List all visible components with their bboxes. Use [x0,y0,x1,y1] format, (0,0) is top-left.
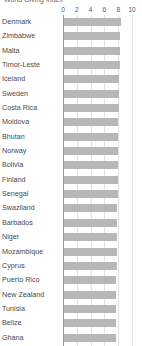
bar-sweden [64,90,119,98]
bar-row: Bolivia [0,158,142,172]
bar-row: Niger [0,230,142,244]
bar-zimbabwe [64,32,120,40]
category-label-zimbabwe: Zimbabwe [2,30,62,41]
bar-row: Swaziland [0,201,142,215]
bar-row: Ghana [0,331,142,345]
bar-row: Sweden [0,87,142,101]
plot-area: DenmarkZimbabweMaltaTimor-LesteIcelandSw… [0,15,142,346]
bar-row: Barbados [0,216,142,230]
category-label-tunisia: Tunisia [2,303,62,314]
bar-row: Costa Rica [0,101,142,115]
bar-row: Cyprus [0,259,142,273]
x-tick-label-6: 6 [103,5,107,14]
bar-new-zealand [64,291,116,299]
category-label-denmark: Denmark [2,16,62,27]
bar-costa-rica [64,104,119,112]
bar-row: Zimbabwe [0,29,142,43]
category-label-new-zealand: New Zealand [2,289,62,300]
bar-finland [64,176,118,184]
category-label-swaziland: Swaziland [2,202,62,213]
bar-row: Mozambique [0,245,142,259]
bar-puerto-rico [64,276,116,284]
bar-swaziland [64,204,117,212]
category-label-cyprus: Cyprus [2,260,62,271]
bar-rows: DenmarkZimbabweMaltaTimor-LesteIcelandSw… [0,15,142,345]
bar-norway [64,147,118,155]
bar-row: Iceland [0,72,142,86]
bar-bhutan [64,133,118,141]
category-label-barbados: Barbados [2,217,62,228]
x-tick-label-8: 8 [116,5,120,14]
x-axis-tick-labels: 0246810 [0,5,142,15]
bar-mozambique [64,248,117,256]
bar-denmark [64,18,121,26]
bar-malta [64,47,120,55]
x-tick-label-4: 4 [89,5,93,14]
bar-iceland [64,75,119,83]
bar-moldova [64,118,118,126]
bar-belize [64,319,116,327]
category-label-puerto-rico: Puerto Rico [2,274,62,285]
bar-row: Puerto Rico [0,273,142,287]
category-label-malta: Malta [2,45,62,56]
category-label-belize: Belize [2,317,62,328]
category-label-iceland: Iceland [2,73,62,84]
bar-row: Bhutan [0,130,142,144]
bar-row: Finland [0,173,142,187]
bar-row: Tunisia [0,302,142,316]
bar-niger [64,233,117,241]
bar-barbados [64,219,117,227]
category-label-senegal: Senegal [2,188,62,199]
bar-row: Norway [0,144,142,158]
category-label-ghana: Ghana [2,332,62,343]
bar-chart: World Giving Index 0246810 DenmarkZimbab… [0,0,142,346]
category-label-sweden: Sweden [2,88,62,99]
bar-row: New Zealand [0,288,142,302]
x-tick-label-10: 10 [128,5,135,14]
bar-tunisia [64,305,116,313]
bar-bolivia [64,161,118,169]
bar-row: Senegal [0,187,142,201]
x-tick-label-0: 0 [61,5,65,14]
category-label-finland: Finland [2,174,62,185]
category-label-moldova: Moldova [2,116,62,127]
category-label-bolivia: Bolivia [2,159,62,170]
bar-senegal [64,190,118,198]
x-tick-label-2: 2 [75,5,79,14]
category-label-costa-rica: Costa Rica [2,102,62,113]
category-label-mozambique: Mozambique [2,246,62,257]
category-label-niger: Niger [2,231,62,242]
category-label-bhutan: Bhutan [2,131,62,142]
bar-ghana [64,334,116,342]
bar-row: Denmark [0,15,142,29]
bar-row: Malta [0,44,142,58]
category-label-timor-leste: Timor-Leste [2,59,62,70]
bar-row: Timor-Leste [0,58,142,72]
bar-row: Belize [0,316,142,330]
bar-cyprus [64,262,117,270]
bar-row: Moldova [0,115,142,129]
category-label-norway: Norway [2,145,62,156]
bar-timor-leste [64,61,120,69]
